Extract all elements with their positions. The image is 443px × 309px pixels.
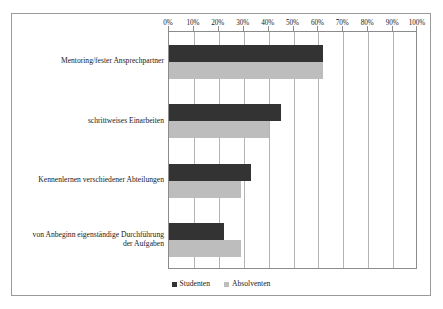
bar-absolventen-3 — [169, 240, 241, 257]
y-axis-category-labels: Mentoring/fester Ansprechpartnerschrittw… — [13, 31, 167, 269]
legend-label: Studenten — [180, 279, 210, 289]
bars-layer — [169, 32, 416, 268]
bar-group-3 — [169, 223, 416, 257]
legend-entry-absolventen[interactable]: Absolventen — [224, 279, 270, 289]
bar-group-2 — [169, 164, 416, 198]
bar-absolventen-1 — [169, 121, 269, 138]
bar-absolventen-0 — [169, 62, 323, 79]
category-label-2: Kennenlernen verschiedener Abteilungen — [12, 175, 164, 184]
plot-area — [168, 31, 417, 269]
bar-absolventen-2 — [169, 181, 241, 198]
legend-swatch-icon-absolventen — [224, 282, 229, 287]
category-label-3: von Anbeginn eigenständige Durchführung … — [12, 230, 164, 249]
legend-swatch-icon-studenten — [172, 282, 177, 287]
legend-label: Absolventen — [232, 279, 270, 289]
bar-studenten-3 — [169, 223, 224, 240]
bar-studenten-1 — [169, 104, 281, 121]
chart-legend: StudentenAbsolventen — [11, 277, 431, 291]
category-label-0: Mentoring/fester Ansprechpartner — [12, 56, 164, 65]
legend-entry-studenten[interactable]: Studenten — [172, 279, 210, 289]
category-label-1: schrittweises Einarbeiten — [12, 116, 164, 125]
chart-figure: 0%10%20%30%40%50%60%70%80%90%100% Mentor… — [0, 0, 443, 309]
bar-studenten-2 — [169, 164, 251, 181]
bar-group-0 — [169, 45, 416, 79]
bar-studenten-0 — [169, 45, 323, 62]
bar-group-1 — [169, 104, 416, 138]
